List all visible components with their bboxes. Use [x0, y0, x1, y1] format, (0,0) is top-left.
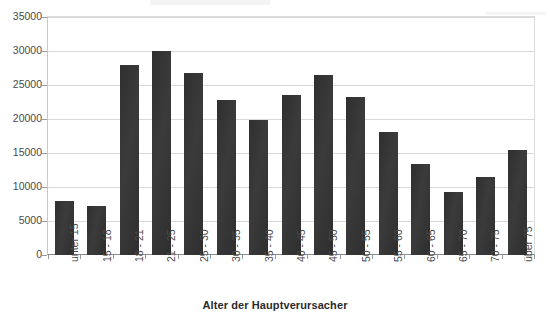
x-tick-mark: [534, 255, 535, 259]
x-tick-mark: [145, 255, 146, 259]
x-tick-mark: [113, 255, 114, 259]
y-axis: 05000100001500020000250003000035000: [0, 0, 42, 323]
x-tick-mark: [469, 255, 470, 259]
y-tick-label: 15000: [13, 147, 42, 158]
bar: [184, 73, 203, 255]
x-tick-mark: [372, 255, 373, 259]
x-tick-label: 70 - 75: [490, 229, 501, 262]
x-tick-mark: [437, 255, 438, 259]
y-tick-mark: [42, 85, 47, 86]
x-tick-label: über 75: [523, 226, 534, 262]
y-tick-label: 25000: [13, 79, 42, 90]
x-tick-label: 25 - 30: [199, 229, 210, 262]
x-tick-mark: [340, 255, 341, 259]
y-tick-mark: [42, 187, 47, 188]
y-tick-label: 20000: [13, 113, 42, 124]
y-tick-label: 10000: [13, 181, 42, 192]
x-tick-mark: [210, 255, 211, 259]
x-tick-label: 21 - 25: [166, 229, 177, 262]
x-tick-label: 40 - 45: [296, 229, 307, 262]
x-tick-mark: [275, 255, 276, 259]
x-tick-mark: [404, 255, 405, 259]
scan-artifact: [150, 0, 270, 5]
x-tick-label: 55 - 60: [393, 229, 404, 262]
y-tick-label: 5000: [19, 215, 42, 226]
x-tick-label: 30 - 35: [231, 229, 242, 262]
x-tick-mark: [178, 255, 179, 259]
x-tick-mark: [502, 255, 503, 259]
y-tick-mark: [42, 17, 47, 18]
y-tick-label: 30000: [13, 45, 42, 56]
x-tick-mark: [307, 255, 308, 259]
scan-artifact: [486, 12, 546, 15]
bar: [152, 51, 171, 255]
x-tick-label: 60 - 65: [426, 229, 437, 262]
bar: [120, 65, 139, 255]
x-tick-mark: [48, 255, 49, 259]
x-tick-mark: [80, 255, 81, 259]
x-tick-label: unter 15: [69, 223, 80, 262]
x-tick-label: 65 - 70: [458, 229, 469, 262]
y-tick-mark: [42, 51, 47, 52]
x-tick-mark: [242, 255, 243, 259]
bar-chart: 05000100001500020000250003000035000 unte…: [0, 0, 550, 323]
y-tick-mark: [42, 153, 47, 154]
y-tick-label: 35000: [13, 11, 42, 22]
x-tick-label: 35 - 40: [264, 229, 275, 262]
x-tick-label: 50 - 55: [361, 229, 372, 262]
y-tick-mark: [42, 119, 47, 120]
x-tick-label: 15 - 18: [102, 229, 113, 262]
x-axis-title: Alter der Hauptverursacher: [0, 299, 550, 311]
y-tick-mark: [42, 255, 47, 256]
bar-series: [48, 17, 534, 255]
y-tick-mark: [42, 221, 47, 222]
x-tick-label: 18 - 21: [134, 229, 145, 262]
x-tick-label: 45 - 50: [328, 229, 339, 262]
